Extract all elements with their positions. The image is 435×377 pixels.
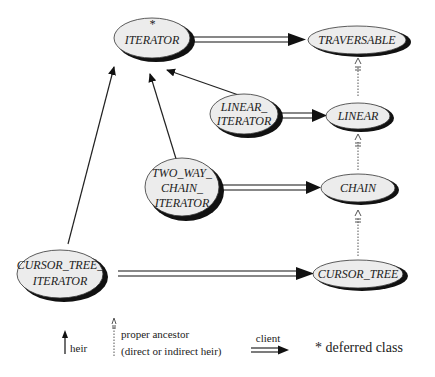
legend-deferred-label: * deferred class	[315, 340, 403, 355]
legend-proper-ancestor: proper ancestor (direct or indirect heir…	[112, 318, 222, 358]
node-chain[interactable]: CHAIN	[321, 174, 399, 205]
heir-edge-cursor-tree-iterator-to-iterator	[68, 67, 114, 244]
heir-edge-two-way-chain-iterator-to-iterator	[150, 74, 177, 162]
legend-client-label: client	[256, 332, 280, 344]
client-edge-iterator-to-traversable	[194, 33, 306, 46]
node-label: ITERATOR	[154, 196, 210, 210]
deferred-marker: *	[149, 17, 155, 31]
node-label: CHAIN_	[161, 181, 204, 195]
legend: heir proper ancestor (direct or indirect…	[62, 318, 403, 358]
node-cursor-tree[interactable]: CURSOR_TREE	[313, 260, 408, 291]
node-label: LINEAR	[337, 109, 379, 123]
node-iterator[interactable]: * ITERATOR	[114, 17, 195, 62]
legend-heir-label: heir	[70, 342, 87, 354]
legend-heir: heir	[62, 330, 87, 354]
client-edge-two-way-chain-iterator-to-chain	[218, 181, 321, 194]
node-linear-iterator[interactable]: LINEAR_ ITERATOR	[210, 94, 283, 138]
node-label: TRAVERSABLE	[318, 33, 396, 47]
ancestor-edge-cursor-tree-to-chain	[355, 210, 361, 256]
node-linear[interactable]: LINEAR	[326, 103, 394, 132]
client-edge-linear-iterator-to-linear	[279, 109, 327, 122]
class-diagram: * ITERATOR TRAVERSABLE LINEAR_ ITERATOR …	[0, 0, 435, 377]
client-edge-cursor-tree-iterator-to-cursor-tree	[118, 267, 314, 280]
node-label: CURSOR_TREE_	[17, 258, 105, 272]
node-label: ITERATOR	[124, 33, 180, 47]
ancestor-edge-linear-to-traversable	[355, 58, 361, 96]
node-label: CHAIN	[340, 181, 377, 195]
node-label: ITERATOR	[32, 274, 88, 288]
node-label: CURSOR_TREE	[318, 267, 399, 281]
legend-client: client	[251, 332, 289, 355]
node-label: ITERATOR	[216, 114, 272, 128]
node-traversable[interactable]: TRAVERSABLE	[308, 26, 411, 57]
node-two-way-chain-iterator[interactable]: TWO_WAY_ CHAIN_ ITERATOR	[145, 158, 224, 221]
ancestor-edge-chain-to-linear	[355, 134, 361, 170]
legend-proper-ancestor-line1: proper ancestor	[121, 328, 189, 340]
node-label: LINEAR_	[220, 100, 269, 114]
node-label: TWO_WAY_	[152, 166, 213, 180]
node-cursor-tree-iterator[interactable]: CURSOR_TREE_ ITERATOR	[17, 250, 108, 302]
legend-proper-ancestor-line2: (direct or indirect heir)	[121, 345, 222, 358]
